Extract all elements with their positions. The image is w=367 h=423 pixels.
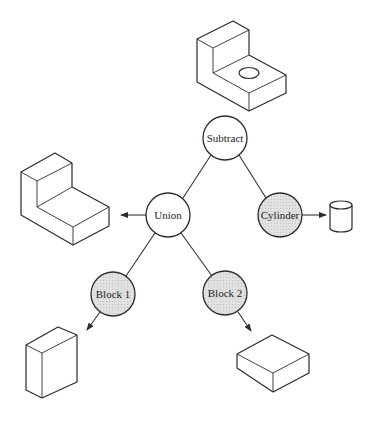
edge-subtract-cylinder bbox=[239, 155, 266, 198]
arrow-block1-result bbox=[87, 312, 100, 330]
edge-union-block1 bbox=[126, 233, 155, 276]
node-cylinder: Cylinder bbox=[258, 193, 302, 237]
node-subtract-label: Subtract bbox=[207, 132, 244, 144]
node-union: Union bbox=[146, 193, 190, 237]
node-subtract: Subtract bbox=[203, 116, 247, 160]
bracket-outline bbox=[197, 21, 286, 111]
union-result-shape bbox=[21, 153, 109, 245]
subtract-result-shape bbox=[197, 21, 286, 111]
node-block2: Block 2 bbox=[203, 271, 247, 315]
cylinder-top bbox=[330, 201, 352, 209]
csg-tree-diagram: Subtract Union Cylinder Block 1 Block 2 bbox=[0, 0, 367, 423]
tall-block-outline bbox=[26, 327, 77, 398]
node-union-label: Union bbox=[154, 209, 182, 221]
node-block1-label: Block 1 bbox=[96, 288, 131, 300]
node-cylinder-label: Cylinder bbox=[261, 209, 300, 221]
arrow-block2-result bbox=[238, 312, 251, 331]
node-block1: Block 1 bbox=[91, 272, 135, 316]
hole-icon bbox=[239, 68, 259, 79]
cylinder-result-shape bbox=[330, 201, 352, 232]
edge-union-block2 bbox=[181, 233, 212, 276]
block2-result-shape bbox=[237, 335, 309, 392]
block1-result-shape bbox=[26, 327, 77, 398]
node-block2-label: Block 2 bbox=[208, 287, 243, 299]
edge-subtract-union bbox=[183, 155, 211, 198]
